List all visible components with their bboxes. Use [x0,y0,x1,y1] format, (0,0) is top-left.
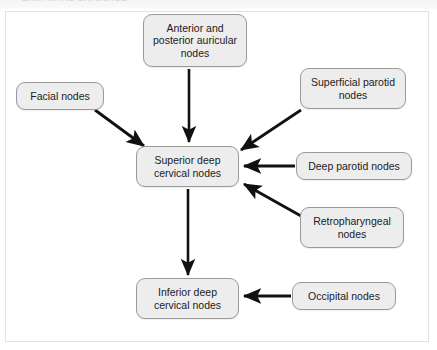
node-label: Inferior deep cervical nodes [154,286,221,311]
node-label: Facial nodes [30,90,90,103]
arrow-facial-to-superior-deep-cervical [95,110,144,146]
node-label: Superior deep cervical nodes [154,154,221,179]
node-label: Occipital nodes [308,290,380,303]
node-superior-deep-cervical[interactable]: Superior deep cervical nodes [136,146,239,187]
node-facial[interactable]: Facial nodes [16,82,104,110]
node-label: Deep parotid nodes [308,160,400,173]
arrow-superficial-parotid-to-superior-deep-cervical [241,110,301,150]
node-superficial-parotid[interactable]: Superficial parotid nodes [300,68,406,109]
arrow-retropharyngeal-to-superior-deep-cervical [244,184,301,216]
node-label: Anterior and posterior auricular nodes [153,22,237,60]
node-deep-parotid[interactable]: Deep parotid nodes [296,152,412,180]
node-inferior-deep-cervical[interactable]: Inferior deep cervical nodes [136,278,239,319]
diagram-canvas: LYMPHATIC DRAINAGE Anterior and posterio… [0,0,437,350]
node-label: Retropharyngeal nodes [313,215,391,240]
node-label: Superficial parotid nodes [311,76,395,101]
node-occipital[interactable]: Occipital nodes [292,282,396,310]
node-anterior-posterior-auricular[interactable]: Anterior and posterior auricular nodes [143,14,247,67]
node-retropharyngeal[interactable]: Retropharyngeal nodes [300,207,404,248]
